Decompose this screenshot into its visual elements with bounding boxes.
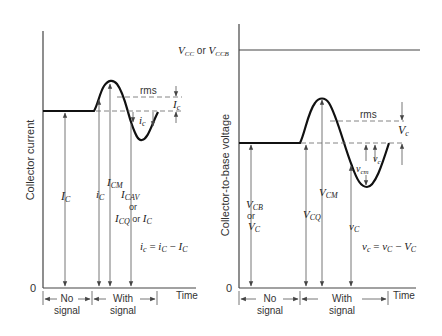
svg-text:VC: VC xyxy=(248,220,261,234)
right-y-axis-label: Collector-to-base voltage xyxy=(219,114,231,236)
left-origin-label: 0 xyxy=(30,282,36,294)
left-panel-collector-current: Collector current 0 Time rms Ic ic IC iC… xyxy=(24,31,198,316)
svg-text:VCQ: VCQ xyxy=(303,208,321,222)
svg-text:vc: vc xyxy=(373,153,381,166)
svg-text:Vc: Vc xyxy=(398,123,409,138)
svg-text:No: No xyxy=(61,293,74,304)
svg-text:ic: ic xyxy=(139,114,146,128)
supply-voltage-label: VCC or VCCB xyxy=(178,44,230,58)
right-origin-label: 0 xyxy=(226,282,232,294)
svg-text:ICAV: ICAV xyxy=(120,188,140,202)
left-equation: ic = iC − IC xyxy=(140,240,188,254)
svg-text:signal: signal xyxy=(54,305,80,316)
left-time-label: Time xyxy=(176,290,198,301)
svg-text:signal: signal xyxy=(110,305,136,316)
svg-text:iC: iC xyxy=(96,188,105,202)
left-y-axis-label: Collector current xyxy=(24,120,36,201)
svg-text:With: With xyxy=(332,293,352,304)
svg-text:signal: signal xyxy=(257,305,283,316)
svg-text:With: With xyxy=(113,293,133,304)
svg-text:vC: vC xyxy=(349,220,360,234)
svg-text:signal: signal xyxy=(329,305,355,316)
svg-text:VCB: VCB xyxy=(246,198,263,212)
right-panel-collector-voltage: VCC or VCCB Collector-to-base voltage 0 … xyxy=(178,24,420,316)
svg-text:No: No xyxy=(264,293,277,304)
transistor-signal-diagram: Collector current 0 Time rms Ic ic IC iC… xyxy=(0,0,442,336)
left-rms-label: rms xyxy=(140,85,157,96)
svg-text:rms: rms xyxy=(360,109,377,120)
svg-text:Ic: Ic xyxy=(172,98,181,112)
right-time-label: Time xyxy=(393,290,415,301)
svg-text:or: or xyxy=(129,202,137,212)
right-equation: vc = vC − VC xyxy=(362,240,417,254)
svg-text:VCM: VCM xyxy=(319,186,339,200)
svg-text:ICQ or IC: ICQ or IC xyxy=(114,212,152,226)
svg-text:IC: IC xyxy=(60,189,71,204)
svg-text:vcm: vcm xyxy=(356,163,369,176)
